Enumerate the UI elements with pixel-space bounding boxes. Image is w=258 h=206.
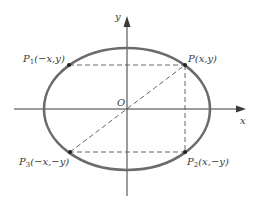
label-p3: P3(−x,−y) bbox=[18, 156, 69, 169]
point-p bbox=[183, 63, 187, 67]
y-axis-label: y bbox=[114, 11, 121, 22]
ellipse-symmetry-diagram: y x O P(x,y) P1(−x,y) P3(−x,−y) P2(x,−y) bbox=[0, 0, 258, 206]
point-p2 bbox=[183, 150, 187, 154]
label-p1: P1(−x,y) bbox=[22, 53, 65, 66]
x-axis-label: x bbox=[240, 115, 246, 126]
label-p: P(x,y) bbox=[187, 53, 217, 64]
point-p3 bbox=[68, 150, 72, 154]
x-axis-arrow-icon bbox=[236, 106, 246, 113]
y-axis-arrow-icon bbox=[124, 16, 131, 27]
point-p1 bbox=[67, 63, 71, 67]
origin-label: O bbox=[117, 97, 125, 108]
label-p2: P2(x,−y) bbox=[186, 156, 229, 169]
